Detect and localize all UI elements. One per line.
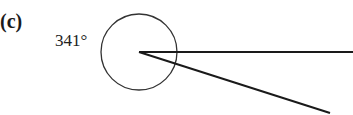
terminal-ray bbox=[139, 52, 330, 113]
angle-diagram bbox=[0, 0, 353, 115]
